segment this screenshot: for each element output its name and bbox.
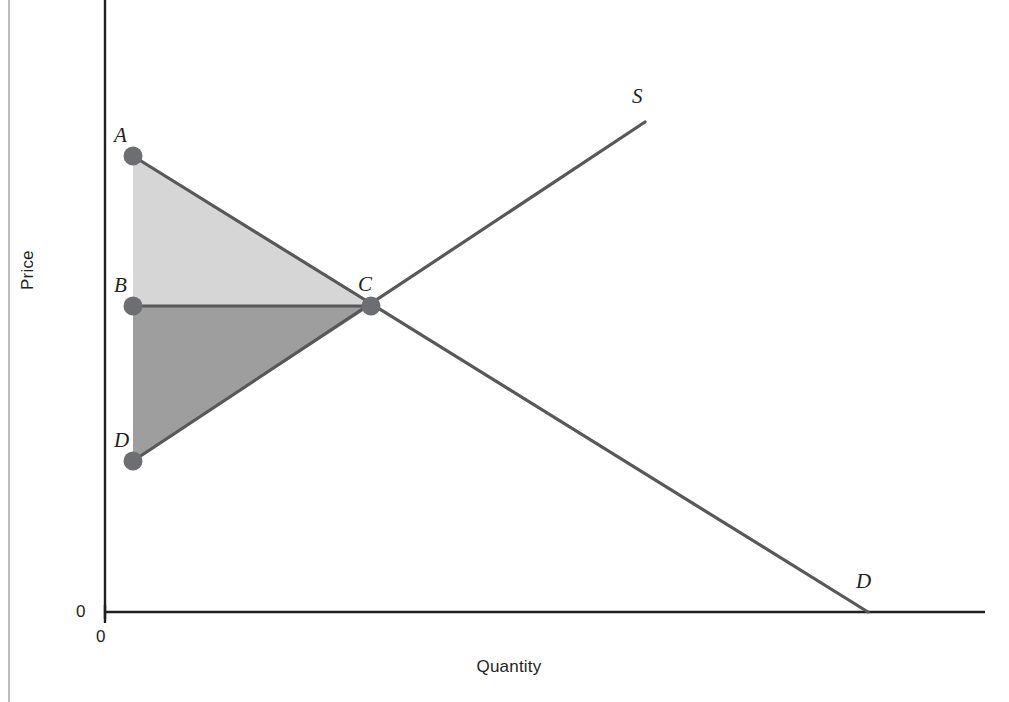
point-label-a: A — [114, 123, 127, 148]
point-marker-b — [124, 297, 143, 316]
supply-curve-label: S — [632, 84, 643, 109]
point-label-d: D — [114, 428, 129, 453]
x-axis-title: Quantity — [477, 657, 542, 677]
point-label-b: B — [114, 273, 127, 298]
chart-canvas — [0, 0, 1009, 702]
y-axis-zero-tick-label: 0 — [76, 602, 85, 622]
point-marker-c — [362, 297, 381, 316]
point-label-c: C — [358, 272, 372, 297]
demand-curve-label: D — [856, 569, 871, 594]
point-marker-a — [124, 147, 143, 166]
y-axis-title: Price — [18, 250, 38, 290]
supply-demand-figure: Price Quantity 0 0 S D A B C D — [0, 0, 1009, 702]
x-axis-zero-tick-label: 0 — [96, 627, 105, 647]
point-marker-d — [124, 452, 143, 471]
